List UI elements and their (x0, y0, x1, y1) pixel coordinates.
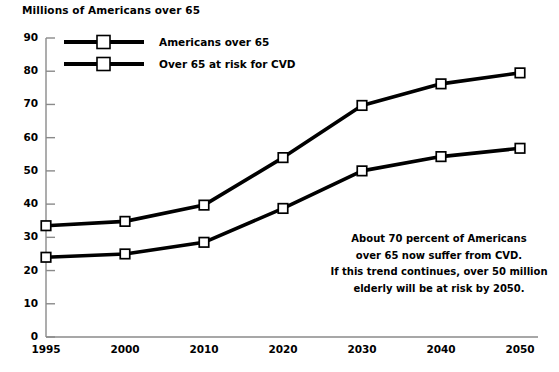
data-point-marker (515, 144, 525, 154)
legend-label: Americans over 65 (159, 36, 269, 48)
annotation-line: If this trend continues, over 50 million (330, 264, 548, 281)
data-point-marker (199, 200, 209, 210)
annotation-line: over 65 now suffer from CVD. (330, 248, 548, 265)
data-point-marker (436, 79, 446, 89)
data-point-marker (515, 68, 525, 78)
data-point-marker (41, 253, 51, 263)
y-axis-tick-label: 10 (12, 297, 38, 309)
y-axis-tick-label: 80 (12, 64, 38, 76)
data-point-marker (357, 166, 367, 176)
y-axis-tick-label: 20 (12, 264, 38, 276)
annotation-line: elderly will be at risk by 2050. (330, 281, 548, 298)
data-point-marker (278, 204, 288, 214)
y-axis-tick-label: 30 (12, 230, 38, 242)
data-point-marker (278, 153, 288, 163)
y-axis-tick-label: 60 (12, 131, 38, 143)
legend-label: Over 65 at risk for CVD (159, 58, 296, 70)
data-point-marker (120, 249, 130, 259)
y-axis-tick-label: 50 (12, 164, 38, 176)
x-axis-tick-label: 2000 (102, 343, 148, 355)
data-point-marker (436, 152, 446, 162)
x-axis-tick-label: 2040 (418, 343, 464, 355)
y-axis-tick-label: 40 (12, 197, 38, 209)
y-axis-tick-label: 90 (12, 31, 38, 43)
annotation-line: About 70 percent of Americans (330, 231, 548, 248)
y-axis-tick-label: 0 (12, 330, 38, 342)
legend-line-marker-icon (62, 33, 146, 51)
data-point-marker (357, 101, 367, 111)
data-point-marker (41, 221, 51, 231)
chart-page: Millions of Americans over 65 0102030405… (0, 0, 559, 372)
y-axis-tick-label: 70 (12, 97, 38, 109)
series-line (46, 73, 520, 226)
chart-annotation: About 70 percent of Americans over 65 no… (330, 231, 548, 297)
x-axis-tick-label: 2010 (181, 343, 227, 355)
data-point-marker (120, 217, 130, 227)
x-axis-tick-label: 2050 (497, 343, 543, 355)
x-axis-tick-label: 2020 (260, 343, 306, 355)
x-axis-tick-label: 2030 (339, 343, 385, 355)
data-point-marker (199, 238, 209, 248)
legend-line-marker-icon (62, 55, 146, 73)
x-axis-tick-label: 1995 (23, 343, 69, 355)
